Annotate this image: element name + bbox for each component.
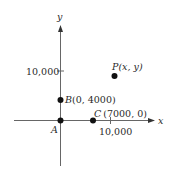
y-axis-label: y: [56, 11, 63, 22]
y-axis-arrow-icon: [58, 25, 63, 32]
x-axis-arrow-icon: [148, 118, 155, 123]
point-b-label: B(0, 4000): [64, 94, 116, 105]
point-b-name: B: [64, 94, 72, 105]
x-axis-label: x: [158, 115, 164, 126]
point-a: [58, 118, 64, 124]
y-tick-label: 10,000: [26, 66, 59, 77]
point-b-coords: (0, 4000): [72, 94, 116, 105]
point-c-name: C: [94, 108, 102, 119]
x-tick-label: 10,000: [99, 126, 132, 137]
point-p-label: P(x, y): [111, 61, 143, 72]
point-p-coords: (x, y): [118, 61, 142, 72]
point-c-coords: (7000, 0): [103, 108, 147, 119]
point-a-label: A: [50, 124, 58, 135]
point-p: [112, 73, 118, 79]
coordinate-diagram: y x 10,000 10,000 A B(0, 4000) C(7000, 0…: [0, 0, 176, 180]
point-b: [58, 97, 64, 103]
point-c-label: C(7000, 0): [94, 108, 147, 119]
